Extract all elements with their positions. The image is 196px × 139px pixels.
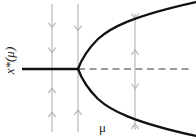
bifurcation-plot [0,0,196,139]
x-axis-label: μ [99,121,106,134]
y-axis-label: x*(μ) [3,41,16,81]
flow-arrow-column-right [132,14,139,130]
bifurcation-figure: x*(μ) μ [0,0,196,139]
upper-stable-branch [78,2,196,69]
